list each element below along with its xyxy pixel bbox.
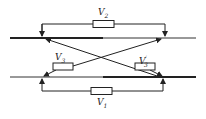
resistor-v2	[93, 21, 114, 28]
label-v3-prime: V′3	[139, 53, 148, 69]
bottom-loop-v1	[42, 79, 163, 95]
label-v2: V2	[98, 8, 108, 20]
label-v1: V1	[97, 98, 107, 110]
resistor-v1	[91, 88, 112, 95]
label-v3: V3	[55, 53, 65, 65]
top-loop-v2	[42, 21, 165, 37]
